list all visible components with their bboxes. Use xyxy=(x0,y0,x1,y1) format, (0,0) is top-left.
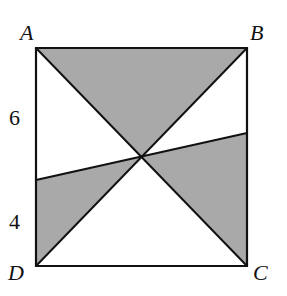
segment-label-lower: 4 xyxy=(9,211,20,233)
vertex-label-c: C xyxy=(253,262,268,284)
square-diagram xyxy=(0,0,287,296)
vertex-label-d: D xyxy=(8,262,24,284)
vertex-label-a: A xyxy=(20,22,33,44)
vertex-label-b: B xyxy=(250,22,263,44)
segment-label-upper: 6 xyxy=(9,107,20,129)
